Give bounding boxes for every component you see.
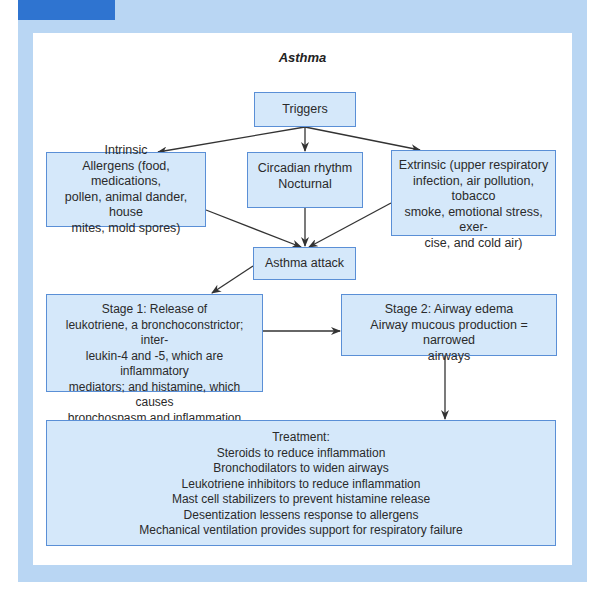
node-text: Stage 1: Release of: [102, 302, 207, 318]
node-text: cise, and cold air): [425, 236, 523, 252]
treatment-item: Desentization lessens response to allerg…: [184, 508, 419, 524]
node-circadian: Circadian rhythm Nocturnal: [247, 152, 363, 208]
node-asthma-attack: Asthma attack: [253, 247, 356, 280]
treatment-item: Bronchodilators to widen airways: [213, 461, 388, 477]
node-stage-1: Stage 1: Release of leukotriene, a bronc…: [46, 294, 263, 392]
node-intrinsic: Intrinsic Allergens (food, medications, …: [46, 152, 206, 227]
node-text: leukin-4 and -5, which are inflammatory: [51, 349, 258, 380]
node-treatment: Treatment: Steroids to reduce inflammati…: [46, 420, 556, 546]
node-text: Stage 2: Airway edema: [385, 302, 514, 318]
node-extrinsic: Extrinsic (upper respiratory infection, …: [391, 150, 556, 236]
figure-tab: [18, 0, 115, 20]
node-stage-2: Stage 2: Airway edema Airway mucous prod…: [341, 294, 557, 356]
treatment-item: Mast cell stabilizers to prevent histami…: [172, 492, 430, 508]
node-text: Extrinsic (upper respiratory: [399, 158, 548, 174]
treatment-item: Leukotriene inhibitors to reduce inflamm…: [182, 477, 421, 493]
node-text: mites, mold spores): [71, 221, 180, 237]
diagram-title: Asthma: [33, 50, 572, 65]
treatment-heading: Treatment:: [272, 430, 330, 446]
node-triggers: Triggers: [254, 92, 356, 127]
node-text: mediators; and histamine, which causes: [51, 380, 258, 411]
node-text: infection, air pollution, tobacco: [396, 174, 551, 205]
node-text: Circadian rhythm: [258, 161, 352, 177]
node-text: Intrinsic: [104, 143, 147, 159]
node-text: Asthma attack: [265, 256, 344, 272]
node-text: Nocturnal: [278, 177, 332, 193]
treatment-item: Steroids to reduce inflammation: [217, 446, 386, 462]
node-text: Airway mucous production = narrowed: [346, 318, 552, 349]
node-text: pollen, animal dander, house: [51, 190, 201, 221]
treatment-item: Mechanical ventilation provides support …: [139, 523, 463, 539]
node-text: leukotriene, a bronchoconstrictor; inter…: [51, 318, 258, 349]
node-text: airways: [428, 349, 470, 365]
node-text: Allergens (food, medications,: [51, 159, 201, 190]
node-text: Triggers: [282, 102, 327, 118]
node-text: smoke, emotional stress, exer-: [396, 205, 551, 236]
